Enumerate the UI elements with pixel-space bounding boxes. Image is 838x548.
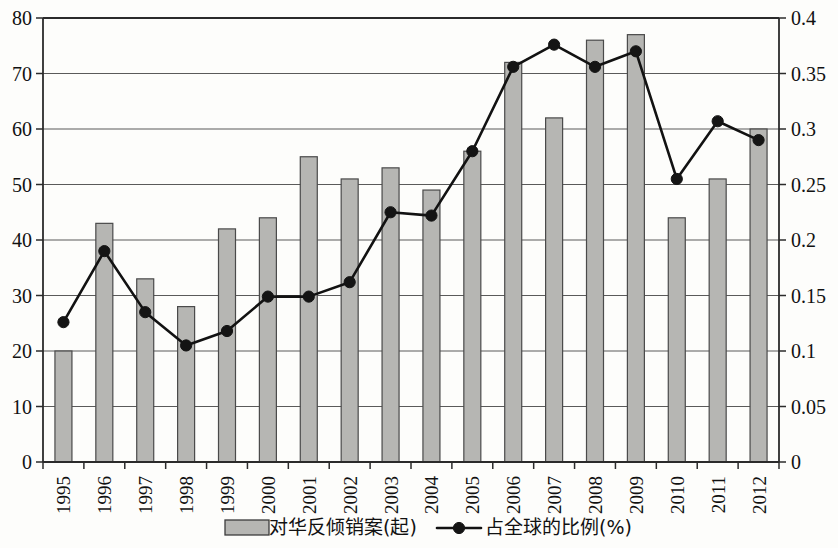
- chart-legend: 对华反倾销案(起)占全球的比例(%): [225, 516, 632, 538]
- right-tick-label: 0: [791, 451, 801, 473]
- x-tick-label: 2009: [626, 476, 647, 514]
- x-tick-label: 2005: [462, 476, 483, 514]
- line-marker: [303, 291, 314, 302]
- left-tick-label: 50: [12, 174, 32, 196]
- line-marker: [344, 277, 355, 288]
- x-tick-label: 2004: [421, 476, 442, 515]
- bar: [300, 157, 317, 462]
- bar: [464, 151, 481, 462]
- x-tick-label: 1997: [135, 476, 156, 514]
- left-tick-label: 60: [12, 118, 32, 140]
- x-tick-label: 1999: [217, 476, 238, 514]
- x-tick-label: 2011: [708, 476, 729, 513]
- legend-line-dot: [453, 522, 464, 533]
- x-axis-ticks: 1995199619971998199920002001200220032004…: [43, 462, 779, 514]
- x-tick-label: 2006: [503, 476, 524, 514]
- bar: [668, 218, 685, 462]
- left-axis-ticks: 01020304050607080: [12, 7, 43, 473]
- x-tick-label: 2003: [381, 476, 402, 514]
- bar: [709, 179, 726, 462]
- right-tick-label: 0.25: [791, 174, 826, 196]
- line-series-group: [58, 39, 764, 351]
- x-tick-label: 2012: [749, 476, 770, 514]
- bar: [55, 351, 72, 462]
- x-tick-label: 2008: [585, 476, 606, 514]
- x-tick-label: 1998: [176, 476, 197, 514]
- bars-group: [55, 35, 767, 462]
- x-tick-label: 2010: [667, 476, 688, 514]
- right-tick-label: 0.4: [791, 7, 816, 29]
- line-marker: [181, 340, 192, 351]
- line-marker: [99, 246, 110, 257]
- line-marker: [140, 307, 151, 318]
- left-tick-label: 70: [12, 63, 32, 85]
- left-tick-label: 10: [12, 396, 32, 418]
- line-marker: [385, 207, 396, 218]
- x-tick-label: 2007: [544, 476, 565, 514]
- line-marker: [467, 146, 478, 157]
- right-tick-label: 0.3: [791, 118, 816, 140]
- bar: [423, 190, 440, 462]
- line-marker: [753, 135, 764, 146]
- left-tick-label: 80: [12, 7, 32, 29]
- chart-svg: 01020304050607080 00.050.10.150.20.250.3…: [0, 0, 838, 548]
- line-marker: [671, 173, 682, 184]
- right-tick-label: 0.1: [791, 340, 816, 362]
- bar: [259, 218, 276, 462]
- right-tick-label: 0.2: [791, 229, 816, 251]
- x-tick-label: 2001: [299, 476, 320, 514]
- legend-label-bar: 对华反倾销案(起): [269, 516, 417, 538]
- bar: [178, 307, 195, 462]
- line-marker: [630, 46, 641, 57]
- x-tick-label: 1995: [53, 476, 74, 514]
- bar: [546, 118, 563, 462]
- bar: [587, 40, 604, 462]
- line-marker: [549, 39, 560, 50]
- bar: [219, 229, 236, 462]
- left-tick-label: 20: [12, 340, 32, 362]
- left-tick-label: 0: [22, 451, 32, 473]
- line-marker: [508, 61, 519, 72]
- x-tick-label: 2000: [258, 476, 279, 514]
- legend-bar-swatch: [225, 520, 269, 535]
- right-tick-label: 0.15: [791, 285, 826, 307]
- antidumping-chart: 01020304050607080 00.050.10.150.20.250.3…: [0, 0, 838, 548]
- line-marker: [426, 210, 437, 221]
- line-path: [63, 45, 758, 346]
- x-tick-label: 2002: [340, 476, 361, 514]
- line-marker: [262, 291, 273, 302]
- left-tick-label: 40: [12, 229, 32, 251]
- right-tick-label: 0.05: [791, 396, 826, 418]
- bar: [627, 35, 644, 462]
- line-marker: [58, 317, 69, 328]
- right-tick-label: 0.35: [791, 63, 826, 85]
- x-tick-label: 1996: [94, 476, 115, 514]
- legend-label-line: 占全球的比例(%): [485, 516, 632, 538]
- line-marker: [589, 61, 600, 72]
- bar: [750, 129, 767, 462]
- line-marker: [712, 116, 723, 127]
- bar: [341, 179, 358, 462]
- right-axis-ticks: 00.050.10.150.20.250.30.350.4: [779, 7, 826, 473]
- line-marker: [221, 325, 232, 336]
- bar: [505, 62, 522, 462]
- left-tick-label: 30: [12, 285, 32, 307]
